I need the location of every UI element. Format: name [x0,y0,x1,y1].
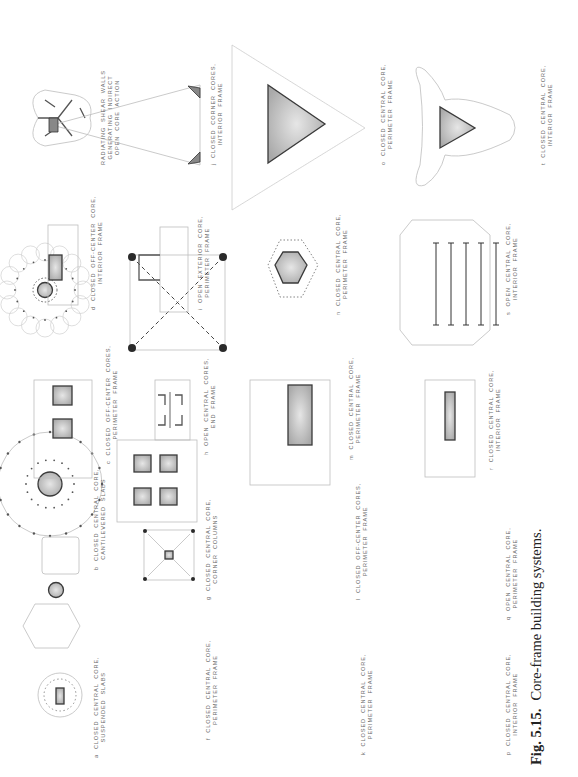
figure-title: Core-frame building systems. [528,529,544,701]
column-dot [7,452,9,454]
column-dot [37,462,39,464]
column-dot [56,317,58,319]
diagram-o [232,45,365,210]
diagram-g [143,529,195,581]
column-dot [7,513,9,515]
label-o: o CLOSED CENTRAL CORE, PERIMETER FRAME [380,63,394,165]
diagram-t [416,67,515,186]
column-dot [33,532,35,534]
diagram-s [400,220,499,345]
label-g: g CLOSED CENTRAL CORE, CORNER COLUMNS [205,498,219,600]
label-d: d CLOSED OFF-CENTER CORE, INTERIOR FRAME [90,196,104,310]
diagram-r [425,380,475,477]
column-dot [53,507,55,509]
column-dot [67,499,69,501]
column-dot [44,259,46,261]
column-dot [65,310,67,312]
label-b: b CLOSED CENTRAL CORE, CANTILEVERED SLAB… [93,468,107,570]
diagram-n [268,240,318,297]
figure-caption: Fig. 5.15.Core-frame building systems. [528,529,545,765]
column-dot [53,459,55,461]
label-f: f CLOSED CENTRAL CORE, PERIMETER FRAME [205,640,219,740]
column-dot [72,475,74,477]
column-dot [44,319,46,321]
column-dot [25,483,27,485]
column-dot [61,504,63,506]
column-dot [65,532,67,534]
column-dot [27,491,29,493]
diagram-a [38,673,82,717]
diagram-l [117,440,197,522]
column-dot [33,317,35,319]
column-dot [72,278,74,280]
shear-wall [463,243,469,325]
column-dot [23,310,25,312]
column-dot [18,525,20,527]
column-dot [31,468,33,470]
column-dot [61,462,63,464]
diagram-b [42,537,79,574]
label-q: q OPEN CENTRAL CORE, PERIMETER FRAME [505,527,519,620]
label-n: n CLOSED CENTRAL CORE, PERIMETER FRAME [335,213,349,315]
column-dot [16,278,18,280]
column-dot [23,268,25,270]
column-dot [45,507,47,509]
diagram-q [128,253,227,352]
scallop-arc [63,308,81,326]
label-a: a CLOSED CENTRAL CORE, SUSPENDED SLABS [93,656,107,758]
figure-number: Fig. 5.15. [528,709,544,765]
column-dot [49,431,51,433]
column-dot [31,499,33,501]
diagram-f [23,583,80,649]
label-c: c CLOSED OFF-CENTER CORES, PERIMETER FRA… [105,345,119,464]
shear-wall [433,243,439,325]
label-l: l CLOSED OFF-CENTER CORES, PERIMETER FRA… [355,483,369,600]
label-h: h OPEN CENTRAL CORES, END FRAME [203,358,217,455]
diagram-e [33,90,91,146]
label-j: j CLOSED CORNER CORES, INTERIOR FRAME [210,63,224,165]
diagram-m [250,380,330,485]
column-dot [14,289,16,291]
scallop-arc [9,254,27,272]
diagram-k [0,431,103,537]
column-dot [37,504,39,506]
diagram-j [49,85,200,165]
label-s: s OPEN CENTRAL CORE, INTERIOR FRAME [505,223,519,315]
column-dot [45,459,47,461]
column-dot [27,475,29,477]
label-p: p CLOSED CENTRAL CORE, INTERIOR FRAME [505,653,519,755]
shear-wall [448,243,454,325]
column-dot [72,301,74,303]
shear-wall [478,243,484,325]
column-dot [79,525,81,527]
label-t: t CLOSED CENTRAL CORE, INTERIOR FRAME [540,65,554,165]
scallop-arc [9,308,27,326]
column-dot [0,499,2,501]
label-r: r CLOSED CENTRAL CORE, INTERIOR FRAME [488,370,502,470]
column-dot [33,261,35,263]
column-dot [73,483,75,485]
label-m: m CLOSED CENTRAL CORE, PERIMETER FRAME [348,357,362,460]
column-dot [0,467,2,469]
column-dot [67,468,69,470]
column-dot [72,491,74,493]
column-dot [16,301,18,303]
column-dot [18,441,20,443]
column-dot [79,441,81,443]
diagram-h [155,380,190,440]
label-k: k CLOSED CENTRAL CORE, PERIMETER FRAME [360,654,374,755]
diagram-c [34,380,92,478]
label-e: RADIATING SHEAR WALLS GENERATING INDIREC… [100,70,121,165]
shear-wall [493,243,499,325]
label-i: i OPEN EXTERIOR CORE, PERIMETER FRAME [197,216,211,310]
column-dot [65,268,67,270]
column-dot [74,289,76,291]
